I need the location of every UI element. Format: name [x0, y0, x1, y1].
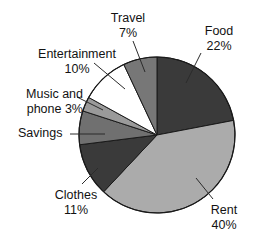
slice-label-entertainment-value: 10%: [25, 62, 129, 77]
slice-label-travel: Travel 7%: [102, 11, 154, 40]
slice-label-food-name: Food: [196, 24, 242, 39]
slice-label-clothes: Clothes 11%: [47, 188, 105, 217]
slice-label-music-and-phone: Music and phone 3%: [13, 87, 83, 116]
slice-label-rent: Rent 40%: [203, 203, 245, 232]
slice-label-travel-name: Travel: [102, 11, 154, 26]
slice-label-travel-value: 7%: [102, 26, 154, 41]
slice-label-rent-name: Rent: [203, 203, 245, 218]
slice-label-clothes-name: Clothes: [47, 188, 105, 203]
slice-label-music-and-phone-name: Music and: [13, 87, 83, 102]
slice-label-entertainment-name: Entertainment: [25, 47, 129, 62]
pie-chart: Travel 7% Food 22% Entertainment 10% Mus…: [0, 0, 253, 247]
slice-label-food: Food 22%: [196, 24, 242, 53]
slice-label-savings: Savings: [18, 126, 76, 141]
slice-label-entertainment: Entertainment 10%: [25, 47, 129, 76]
slice-label-rent-value: 40%: [203, 218, 245, 233]
slice-label-music-and-phone-value: phone 3%: [13, 102, 83, 117]
slice-label-savings-name: Savings: [18, 126, 76, 141]
slice-label-clothes-value: 11%: [47, 203, 105, 218]
slice-label-food-value: 22%: [196, 39, 242, 54]
